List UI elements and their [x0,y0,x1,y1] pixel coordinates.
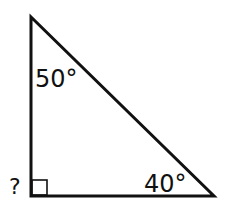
unknown-angle-label: ? [9,174,21,199]
angle-label-top: 50° [35,65,78,93]
triangle [31,17,214,196]
angle-label-bottom-right: 40° [144,170,187,198]
right-angle-marker [32,180,47,195]
triangle-diagram: 50° 40° ? [0,0,229,211]
